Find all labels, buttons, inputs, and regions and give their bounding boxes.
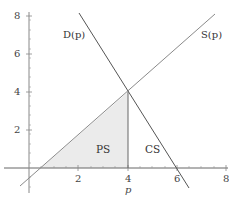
y-tick-label-6: 6 bbox=[14, 48, 20, 59]
supply-demand-chart: 8 6 4 2 2 4 6 8 p D(p) S(p) PS CS bbox=[0, 0, 229, 200]
x-tick-label-4: 4 bbox=[125, 173, 131, 184]
consumer-surplus-label: CS bbox=[145, 143, 160, 155]
y-tick-label-2: 2 bbox=[14, 124, 20, 135]
x-tick-label-2: 2 bbox=[75, 173, 81, 184]
supply-label: S(p) bbox=[201, 29, 222, 40]
demand-label: D(p) bbox=[63, 29, 85, 40]
producer-surplus-label: PS bbox=[96, 143, 110, 155]
x-axis-title: p bbox=[125, 184, 132, 195]
x-tick-label-6: 6 bbox=[174, 173, 180, 184]
y-tick-label-8: 8 bbox=[14, 10, 20, 21]
x-tick-label-8: 8 bbox=[223, 173, 229, 184]
y-tick-label-4: 4 bbox=[14, 86, 20, 97]
